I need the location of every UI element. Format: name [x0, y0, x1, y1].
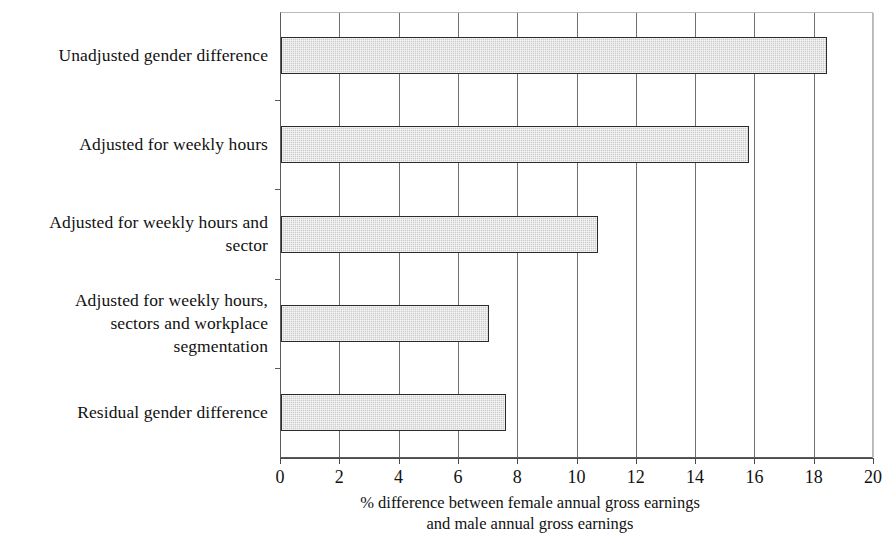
gridline — [636, 13, 637, 457]
y-axis-tick — [275, 189, 281, 190]
x-axis-tick-label: 2 — [309, 466, 369, 488]
x-axis-tick — [517, 458, 518, 464]
y-axis-category-label: Adjusted for weekly hours,sectors and wo… — [6, 289, 268, 358]
category-label-line: sector — [6, 234, 268, 257]
category-label-line: Adjusted for weekly hours and — [6, 211, 268, 234]
y-axis-category-label: Adjusted for weekly hours andsector — [6, 211, 268, 257]
y-axis-category-label: Residual gender difference — [6, 401, 268, 424]
x-axis-title: % difference between female annual gross… — [180, 492, 880, 534]
category-label-line: segmentation — [6, 335, 268, 358]
category-label-line: Adjusted for weekly hours, — [6, 289, 268, 312]
x-axis-title-line: and male annual gross earnings — [180, 513, 880, 534]
y-axis-tick — [275, 279, 281, 280]
x-axis-tick — [873, 458, 874, 464]
x-axis-tick — [695, 458, 696, 464]
category-label-line: Unadjusted gender difference — [6, 44, 268, 67]
category-label-line: sectors and workplace — [6, 312, 268, 335]
bar — [281, 394, 506, 431]
x-axis-tick — [754, 458, 755, 464]
x-axis-tick — [399, 458, 400, 464]
bar — [281, 126, 749, 163]
y-axis-tick — [275, 100, 281, 101]
x-axis-tick-label: 16 — [724, 466, 784, 488]
y-axis-tick — [275, 368, 281, 369]
bar — [281, 216, 598, 253]
gridline — [754, 13, 755, 457]
plot-area — [280, 12, 873, 458]
gridline — [695, 13, 696, 457]
bar — [281, 305, 489, 342]
x-axis-tick-label: 8 — [487, 466, 547, 488]
x-axis-tick — [814, 458, 815, 464]
x-axis-tick — [458, 458, 459, 464]
x-axis-tick-label: 12 — [606, 466, 666, 488]
x-axis-tick-label: 0 — [250, 466, 310, 488]
x-axis-tick-label: 18 — [784, 466, 844, 488]
gridline — [814, 13, 815, 457]
y-axis-category-label: Unadjusted gender difference — [6, 44, 268, 67]
x-axis-tick — [280, 458, 281, 464]
x-axis-tick — [339, 458, 340, 464]
x-axis-tick-label: 14 — [665, 466, 725, 488]
y-axis-category-label: Adjusted for weekly hours — [6, 133, 268, 156]
bar — [281, 37, 827, 74]
x-axis-tick-label: 10 — [547, 466, 607, 488]
x-axis-tick — [636, 458, 637, 464]
x-axis-tick-label: 20 — [843, 466, 890, 488]
bar-chart-figure: Unadjusted gender differenceAdjusted for… — [0, 0, 890, 547]
x-axis-tick — [577, 458, 578, 464]
category-label-line: Adjusted for weekly hours — [6, 133, 268, 156]
category-label-line: Residual gender difference — [6, 401, 268, 424]
x-axis-title-line: % difference between female annual gross… — [180, 492, 880, 513]
x-axis-tick-label: 4 — [369, 466, 429, 488]
x-axis-tick-label: 6 — [428, 466, 488, 488]
gridline — [873, 13, 874, 457]
